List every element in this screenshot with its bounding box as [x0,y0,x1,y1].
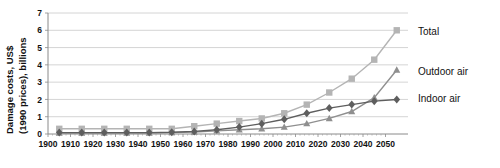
x-tick-label-1910: 1910 [61,139,80,149]
x-tick-label-1930: 1930 [106,139,125,149]
data-point-marker [393,66,400,72]
data-point-marker [304,101,310,107]
x-tick-label-1960: 1960 [174,139,193,149]
y-tick-label-5: 5 [37,43,42,53]
legend-label-indoor-air: Indoor air [418,93,461,104]
y-axis-title-line2: (1990 prices), billions [17,37,28,134]
data-point-marker [394,27,400,33]
series-line [59,70,397,133]
data-point-marker [348,108,355,114]
y-tick-label-1: 1 [37,112,42,122]
y-tick-label-2: 2 [37,95,42,105]
x-tick-label-1940: 1940 [129,139,148,149]
x-tick-label-2040: 2040 [354,139,373,149]
data-point-marker [326,104,333,112]
chart-legend: TotalOutdoor airIndoor air [418,26,469,104]
y-axis-ticks: 01234567 [37,8,48,139]
x-tick-label-1990: 1990 [241,139,260,149]
x-tick-label-1900: 1900 [39,139,58,149]
y-tick-label-7: 7 [37,8,42,18]
x-tick-label-2020: 2020 [309,139,328,149]
legend-label-total: Total [418,26,439,37]
x-tick-label-1950: 1950 [151,139,170,149]
x-tick-label-1920: 1920 [84,139,103,149]
x-tick-label-2000: 2000 [264,139,283,149]
legend-label-outdoor-air: Outdoor air [418,66,469,77]
damage-costs-line-chart: Damage costs, US$ (1990 prices), billion… [0,0,500,168]
y-axis-title: Damage costs, US$ (1990 prices), billion… [4,37,28,134]
gridlines [48,13,408,117]
x-tick-label-2010: 2010 [286,139,305,149]
x-axis-ticks: 1900191019201930194019501960197019801990… [39,134,396,149]
data-point-marker [349,75,355,81]
y-tick-label-6: 6 [37,25,42,35]
y-tick-label-4: 4 [37,60,42,70]
chart-figure: Damage costs, US$ (1990 prices), billion… [0,0,500,168]
data-point-marker [348,101,355,109]
y-tick-label-3: 3 [37,77,42,87]
x-tick-label-2030: 2030 [331,139,350,149]
series-total [56,27,400,132]
data-point-marker [371,56,377,62]
data-point-marker [393,95,400,103]
y-axis-title-line1: Damage costs, US$ [4,45,15,134]
data-point-marker [326,89,332,95]
figure-caption [0,156,500,168]
data-point-marker [303,109,310,117]
series-line [59,30,397,129]
x-tick-label-1970: 1970 [196,139,215,149]
series-line [59,99,397,132]
x-tick-label-2050: 2050 [376,139,395,149]
x-tick-label-1980: 1980 [219,139,238,149]
